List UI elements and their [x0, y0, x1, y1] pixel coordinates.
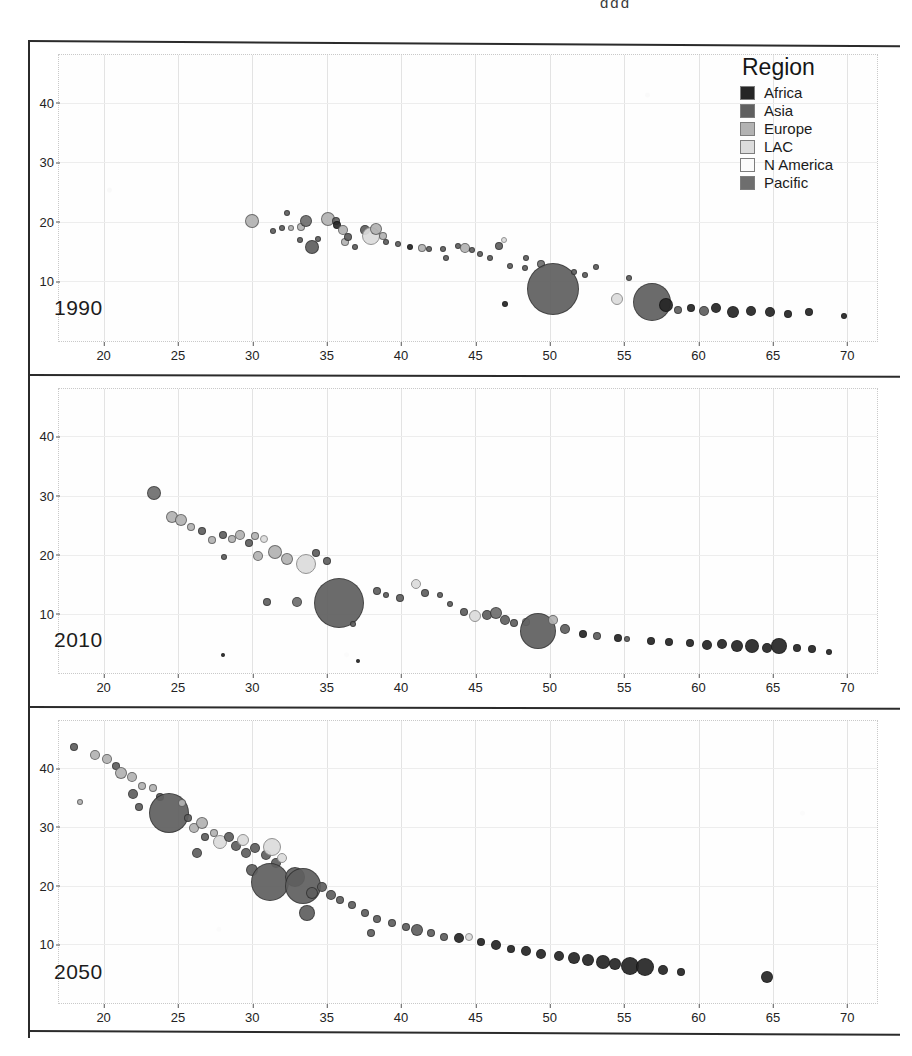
- data-point-bubble: [402, 923, 410, 931]
- x-axis-tick-label: 60: [691, 680, 705, 695]
- gridline-vertical: [178, 55, 179, 341]
- legend-swatch-icon: [740, 122, 755, 136]
- data-point-bubble: [477, 251, 483, 257]
- gridline-horizontal: [59, 886, 877, 887]
- gridline-horizontal: [59, 222, 877, 223]
- data-point-bubble: [784, 310, 792, 318]
- y-axis-tick-label: 40: [40, 95, 54, 110]
- data-point-bubble: [306, 887, 318, 899]
- gridline-vertical: [550, 721, 551, 1003]
- data-point-bubble: [571, 269, 577, 275]
- gridline-horizontal: [59, 281, 877, 282]
- data-point-bubble: [609, 958, 621, 970]
- data-point-bubble: [447, 601, 453, 607]
- data-point-bubble: [245, 214, 259, 228]
- legend-item-n-america[interactable]: N America: [740, 156, 833, 173]
- gridline-vertical: [699, 721, 700, 1003]
- gridline-vertical: [252, 55, 253, 341]
- data-point-bubble: [727, 306, 739, 318]
- data-point-bubble: [411, 579, 421, 589]
- legend-item-label: Europe: [764, 121, 812, 136]
- x-axis-tick-label: 30: [245, 348, 259, 363]
- data-point-bubble: [251, 532, 259, 540]
- x-axis-tick-label: 35: [319, 348, 333, 363]
- data-point-bubble: [502, 301, 508, 307]
- x-axis-tick-label: 55: [617, 680, 631, 695]
- data-point-bubble: [300, 215, 312, 227]
- legend-title: Region: [742, 54, 833, 81]
- data-point-bubble: [677, 968, 685, 976]
- x-axis-tick-label: 40: [394, 1010, 408, 1025]
- y-axis-tick-label: 30: [40, 488, 54, 503]
- data-point-bubble: [560, 624, 570, 634]
- data-point-bubble: [582, 954, 594, 966]
- data-point-bubble: [187, 523, 195, 531]
- data-point-bubble: [421, 589, 429, 597]
- y-axis-tick-label: 20: [40, 878, 54, 893]
- data-point-bubble: [350, 621, 356, 627]
- data-point-bubble: [277, 853, 287, 863]
- gridline-vertical: [847, 389, 848, 673]
- data-point-bubble: [765, 307, 775, 317]
- data-point-bubble: [454, 933, 464, 943]
- data-point-bubble: [367, 929, 375, 937]
- legend-swatch-icon: [740, 104, 755, 118]
- x-axis-tick-label: 45: [468, 348, 482, 363]
- legend-item-label: Asia: [764, 103, 793, 118]
- data-point-bubble: [281, 553, 293, 565]
- x-axis-tick-label: 35: [319, 680, 333, 695]
- data-point-bubble: [427, 929, 435, 937]
- data-point-bubble: [426, 246, 432, 252]
- data-point-bubble: [396, 594, 404, 602]
- x-axis-tick-label: 65: [766, 680, 780, 695]
- legend-item-asia[interactable]: Asia: [740, 102, 833, 119]
- data-point-bubble: [521, 946, 531, 956]
- data-point-bubble: [793, 644, 801, 652]
- x-axis-tick-label: 70: [840, 348, 854, 363]
- x-axis-tick-label: 40: [394, 680, 408, 695]
- data-point-bubble: [501, 237, 507, 243]
- x-axis-tick-label: 20: [96, 348, 110, 363]
- gridline-horizontal: [59, 944, 877, 945]
- legend-swatch-icon: [740, 158, 755, 172]
- x-axis-tick-label: 70: [840, 1010, 854, 1025]
- data-point-bubble: [731, 640, 743, 652]
- data-point-bubble: [841, 313, 847, 319]
- gridline-vertical: [475, 389, 476, 673]
- data-point-bubble: [260, 535, 268, 543]
- gridline-vertical: [401, 721, 402, 1003]
- data-point-bubble: [665, 638, 673, 646]
- data-point-bubble: [178, 799, 186, 807]
- gridline-vertical: [847, 55, 848, 341]
- data-point-bubble: [235, 530, 245, 540]
- x-axis-tick-label: 20: [96, 1010, 110, 1025]
- gridline-horizontal: [59, 436, 877, 437]
- data-point-bubble: [373, 915, 381, 923]
- gridline-vertical: [401, 55, 402, 341]
- data-point-bubble: [507, 263, 513, 269]
- data-point-bubble: [686, 639, 694, 647]
- data-point-bubble: [593, 264, 599, 270]
- data-point-bubble: [582, 272, 588, 278]
- legend-item-label: Africa: [764, 85, 802, 100]
- data-point-bubble: [288, 225, 294, 231]
- x-axis-tick-label: 25: [171, 680, 185, 695]
- data-point-bubble: [614, 634, 622, 642]
- y-axis-tick-label: 10: [40, 937, 54, 952]
- y-axis-tick-label: 20: [40, 547, 54, 562]
- data-point-bubble: [388, 919, 396, 927]
- y-axis-tick-label: 30: [40, 155, 54, 170]
- data-point-bubble: [284, 210, 290, 216]
- legend-item-lac[interactable]: LAC: [740, 138, 833, 155]
- data-point-bubble: [647, 637, 655, 645]
- legend-item-pacific[interactable]: Pacific: [740, 174, 833, 191]
- legend-item-africa[interactable]: Africa: [740, 84, 833, 101]
- gridline-vertical: [699, 55, 700, 341]
- panel-label-2050: 2050: [54, 960, 103, 984]
- gridline-vertical: [401, 389, 402, 673]
- data-point-bubble: [296, 554, 316, 574]
- data-point-bubble: [495, 242, 503, 250]
- data-point-bubble: [826, 649, 832, 655]
- legend-item-europe[interactable]: Europe: [740, 120, 833, 137]
- data-point-bubble: [314, 578, 364, 628]
